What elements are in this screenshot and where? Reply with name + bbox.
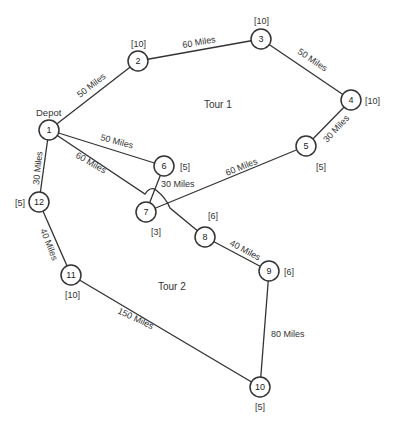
demand-4: [10]	[365, 96, 380, 106]
svg-text:3: 3	[258, 34, 263, 44]
edge-label-5-7: 60 Miles	[224, 156, 259, 178]
demand-11: [10]	[65, 290, 80, 300]
svg-text:2: 2	[135, 56, 140, 66]
depot-label: Depot	[36, 107, 62, 118]
edge-label-1-8: 60 Miles	[74, 150, 108, 176]
svg-text:12: 12	[34, 197, 44, 207]
edge-label-11-12: 40 Miles	[38, 227, 60, 262]
vehicle-routing-diagram: 50 Miles 60 Miles 50 Miles 30 Miles 60 M…	[0, 0, 397, 425]
tour-1-label: Tour 1	[204, 99, 232, 110]
node-12: 12 [5]	[15, 192, 49, 212]
demand-7: [3]	[151, 227, 161, 237]
svg-text:7: 7	[143, 207, 148, 217]
svg-text:5: 5	[303, 141, 308, 151]
node-5: 5 [5]	[296, 136, 326, 172]
node-11: 11 [10]	[61, 265, 81, 300]
svg-text:4: 4	[348, 95, 353, 105]
node-9: 9 [6]	[259, 261, 294, 281]
node-2: 2 [10]	[128, 39, 148, 71]
node-1: 1	[39, 120, 59, 140]
edge-label-7-6: 30 Miles	[161, 179, 195, 189]
node-4: 4 [10]	[341, 90, 380, 110]
edge-label-3-4: 50 Miles	[296, 46, 330, 73]
svg-text:1: 1	[46, 125, 51, 135]
edge-3-4	[261, 39, 351, 100]
edge-label-9-10: 80 Miles	[271, 329, 305, 339]
demand-12: [5]	[15, 198, 25, 208]
edge-1-2	[49, 61, 138, 130]
svg-text:6: 6	[161, 161, 166, 171]
node-6: 6 [5]	[154, 156, 190, 176]
demand-5: [5]	[316, 162, 326, 172]
demand-6: [5]	[180, 162, 190, 172]
demand-10: [5]	[255, 402, 265, 412]
tour-2-label: Tour 2	[158, 281, 186, 292]
demand-3: [10]	[254, 16, 269, 26]
svg-text:10: 10	[255, 382, 265, 392]
node-8: 8 [6]	[195, 211, 218, 247]
svg-text:11: 11	[66, 270, 75, 280]
edge-9-10	[260, 271, 269, 387]
node-10: 10 [5]	[250, 377, 270, 412]
demand-2: [10]	[131, 39, 146, 49]
demand-9: [6]	[284, 267, 294, 277]
edge-label-10-11: 150 Miles	[116, 306, 156, 332]
edge-label-4-5: 30 Miles	[321, 113, 352, 145]
svg-text:8: 8	[202, 232, 207, 242]
node-3: 3 [10]	[251, 16, 271, 49]
svg-text:9: 9	[266, 266, 271, 276]
edge-label-1-2: 50 Miles	[75, 71, 108, 100]
demand-8: [6]	[208, 211, 218, 221]
